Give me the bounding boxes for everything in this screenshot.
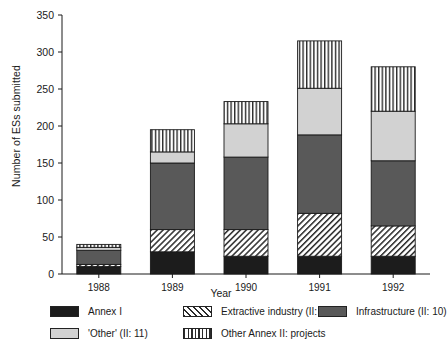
x-axis-tick-label: 1992 bbox=[382, 282, 405, 293]
bar-segment bbox=[77, 244, 121, 247]
bar-segment bbox=[371, 161, 415, 226]
bar-segment bbox=[224, 230, 268, 257]
legend-item: 'Other' (II: 11) bbox=[50, 327, 148, 340]
legend-item: Extractive industry (II: 2) bbox=[183, 305, 329, 318]
legend-item: Infrastructure (II: 10) bbox=[318, 305, 447, 318]
stacked-bar-plot: 050100150200250300350 198819891990199119… bbox=[0, 0, 442, 300]
y-axis-tick-label: 300 bbox=[36, 46, 54, 58]
y-axis-tick-label: 200 bbox=[36, 120, 54, 132]
legend-label: 'Other' (II: 11) bbox=[88, 328, 148, 339]
legend-swatch-icon bbox=[50, 328, 79, 339]
bar-segment bbox=[150, 252, 194, 274]
x-axis-tick-labels: 19881989199019911992 bbox=[88, 274, 405, 293]
chart-container: Number of ESs submitted Year 05010015020… bbox=[0, 0, 442, 300]
bar-segment bbox=[150, 163, 194, 230]
bar-segment bbox=[224, 157, 268, 230]
bar-segment bbox=[298, 41, 342, 88]
bar-segment bbox=[77, 250, 121, 264]
legend-label: Annex I bbox=[88, 306, 122, 317]
y-axis-tick-label: 0 bbox=[48, 268, 54, 280]
bar-segment bbox=[150, 230, 194, 252]
bar-segment bbox=[371, 67, 415, 111]
y-axis-tick-label: 50 bbox=[42, 231, 54, 243]
legend-swatch-icon bbox=[183, 306, 212, 317]
bars bbox=[77, 41, 415, 274]
y-axis-tick-label: 150 bbox=[36, 157, 54, 169]
bar-segment bbox=[298, 88, 342, 135]
bar-segment bbox=[371, 256, 415, 274]
bar-segment bbox=[371, 226, 415, 256]
legend-item: Other Annex II: projects bbox=[183, 327, 326, 340]
legend-label: Infrastructure (II: 10) bbox=[356, 306, 447, 317]
legend-item: Annex I bbox=[50, 305, 122, 318]
bar-segment bbox=[298, 213, 342, 256]
chart-legend: Annex IExtractive industry (II: 2)Infras… bbox=[0, 303, 442, 357]
legend-label: Other Annex II: projects bbox=[221, 328, 326, 339]
bar-segment bbox=[224, 124, 268, 157]
bar-segment bbox=[224, 256, 268, 274]
bar-segment bbox=[371, 111, 415, 161]
x-axis-tick-label: 1989 bbox=[161, 282, 184, 293]
legend-swatch-icon bbox=[183, 328, 212, 339]
bar-segment bbox=[150, 130, 194, 152]
legend-swatch-icon bbox=[318, 306, 347, 317]
x-axis-tick-label: 1990 bbox=[235, 282, 258, 293]
bar-segment bbox=[298, 256, 342, 274]
bar-segment bbox=[298, 135, 342, 213]
y-axis-tick-label: 350 bbox=[36, 9, 54, 21]
bar-segment bbox=[224, 102, 268, 124]
y-axis-tick-label: 250 bbox=[36, 83, 54, 95]
legend-label: Extractive industry (II: 2) bbox=[221, 306, 329, 317]
legend-swatch-icon bbox=[50, 306, 79, 317]
bar-segment bbox=[150, 152, 194, 163]
x-axis-tick-label: 1988 bbox=[88, 282, 111, 293]
x-axis-tick-label: 1991 bbox=[308, 282, 331, 293]
bar-segment bbox=[77, 267, 121, 274]
y-axis-tick-label: 100 bbox=[36, 194, 54, 206]
